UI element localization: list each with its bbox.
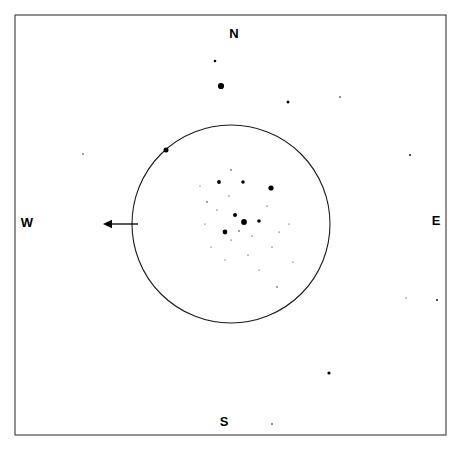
star-marker — [405, 297, 406, 298]
star-marker — [228, 195, 229, 196]
star-marker — [216, 209, 217, 210]
star-marker — [266, 205, 267, 206]
drift-arrow-head-icon — [103, 220, 112, 228]
star-marker — [225, 260, 226, 261]
star-marker — [409, 154, 411, 156]
star-marker — [287, 101, 290, 104]
cardinal-label-s: S — [220, 414, 229, 429]
star-marker — [339, 96, 341, 98]
star-marker — [247, 254, 248, 255]
star-marker — [233, 213, 237, 217]
star-marker — [271, 423, 273, 425]
star-marker — [211, 247, 212, 248]
star-marker — [218, 83, 224, 89]
star-marker — [276, 286, 277, 287]
star-marker — [327, 371, 330, 374]
star-marker — [251, 235, 252, 236]
star-marker — [278, 231, 279, 232]
star-marker — [293, 262, 294, 263]
sky-field-border — [15, 15, 446, 435]
star-marker — [230, 239, 231, 240]
star-marker — [200, 186, 201, 187]
drift-direction-arrow — [103, 220, 138, 228]
star-marker — [82, 153, 83, 154]
star-field-layer — [82, 60, 438, 425]
star-marker — [230, 169, 231, 170]
star-marker — [223, 230, 228, 235]
star-marker — [205, 224, 206, 225]
star-marker — [238, 230, 239, 231]
eyepiece-field-of-view-circle — [132, 125, 330, 323]
star-marker — [214, 60, 217, 63]
star-finder-chart: NESW — [0, 0, 461, 450]
sky-field-canvas: NESW — [0, 0, 461, 450]
star-marker — [289, 224, 290, 225]
star-marker — [268, 185, 273, 190]
cardinal-label-n: N — [229, 26, 238, 41]
star-marker — [259, 270, 260, 271]
star-marker — [206, 201, 207, 202]
star-marker — [271, 246, 272, 247]
star-marker — [241, 180, 245, 184]
cardinal-label-e: E — [432, 213, 441, 228]
cardinal-label-w: W — [21, 215, 34, 230]
star-marker — [257, 219, 261, 223]
star-marker — [217, 180, 221, 184]
star-marker — [241, 219, 247, 225]
star-marker — [436, 299, 438, 301]
star-marker — [164, 148, 169, 153]
cardinal-direction-labels: NESW — [21, 26, 441, 429]
